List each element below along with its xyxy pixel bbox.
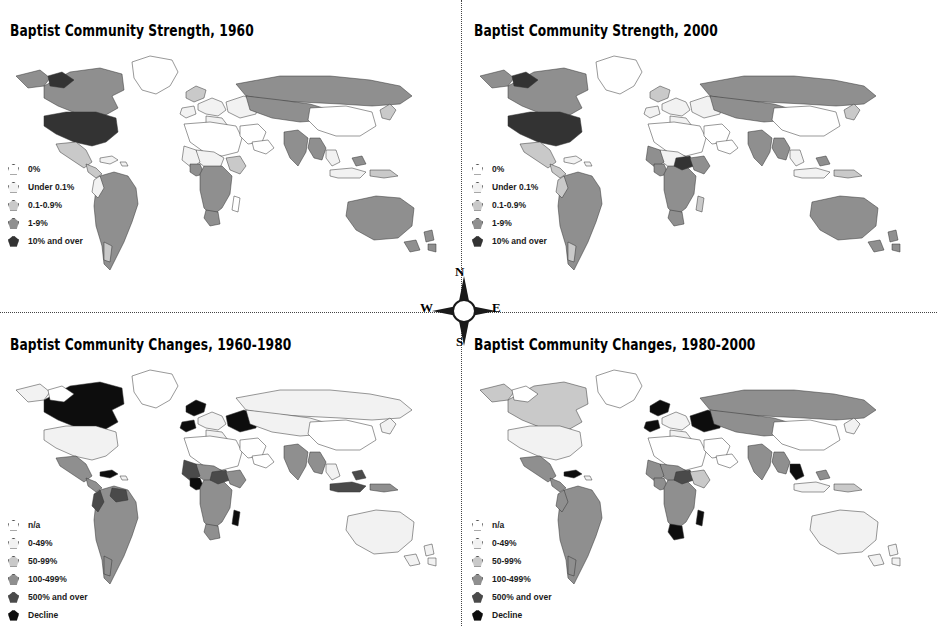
legend-row: Decline bbox=[472, 606, 552, 624]
legend-row: 500% and over bbox=[472, 588, 552, 606]
legend-row: 1-9% bbox=[472, 214, 547, 232]
compass-label-north: N bbox=[455, 264, 464, 280]
legend-swatch-pentagon-icon bbox=[472, 164, 483, 175]
legend-swatch-pentagon-icon bbox=[472, 520, 483, 531]
legend-swatch-pentagon-icon bbox=[8, 574, 19, 585]
legend-row: n/a bbox=[472, 516, 552, 534]
legend-label: 1-9% bbox=[28, 218, 48, 229]
legend-label: Under 0.1% bbox=[492, 182, 538, 193]
legend-row: Under 0.1% bbox=[8, 178, 83, 196]
legend-swatch-pentagon-icon bbox=[472, 538, 483, 549]
legend-swatch-pentagon-icon bbox=[8, 556, 19, 567]
legend-swatch-pentagon-icon bbox=[8, 200, 19, 211]
legend-label: Under 0.1% bbox=[28, 182, 74, 193]
legend-strength: 0%Under 0.1%0.1-0.9%1-9%10% and over bbox=[472, 160, 547, 250]
legend-label: 50-99% bbox=[492, 556, 521, 567]
panel-strength-2000: Baptist Community Strength, 2000 bbox=[464, 0, 926, 312]
legend-row: 500% and over bbox=[8, 588, 88, 606]
legend-swatch-pentagon-icon bbox=[472, 610, 483, 621]
legend-row: 0.1-0.9% bbox=[8, 196, 83, 214]
legend-row: 0% bbox=[472, 160, 547, 178]
legend-changes: n/a0-49%50-99%100-499%500% and overDecli… bbox=[8, 516, 88, 624]
legend-label: 0.1-0.9% bbox=[28, 200, 62, 211]
legend-label: 0% bbox=[492, 164, 504, 175]
panel-changes-1960-1980: Baptist Community Changes, 1960-1980 bbox=[0, 314, 462, 626]
legend-row: Decline bbox=[8, 606, 88, 624]
legend-row: 100-499% bbox=[472, 570, 552, 588]
panel-strength-1960: Baptist Community Strength, 1960 bbox=[0, 0, 462, 312]
legend-swatch-pentagon-icon bbox=[472, 592, 483, 603]
legend-swatch-pentagon-icon bbox=[472, 218, 483, 229]
legend-row: 0-49% bbox=[472, 534, 552, 552]
legend-label: 0.1-0.9% bbox=[492, 200, 526, 211]
legend-label: Decline bbox=[28, 610, 58, 621]
legend-swatch-pentagon-icon bbox=[8, 538, 19, 549]
legend-row: 50-99% bbox=[8, 552, 88, 570]
legend-label: 500% and over bbox=[492, 592, 552, 603]
legend-row: 50-99% bbox=[472, 552, 552, 570]
legend-swatch-pentagon-icon bbox=[8, 218, 19, 229]
panel-changes-1980-2000: Baptist Community Changes, 1980-2000 bbox=[464, 314, 926, 626]
legend-row: 10% and over bbox=[472, 232, 547, 250]
legend-strength: 0%Under 0.1%0.1-0.9%1-9%10% and over bbox=[8, 160, 83, 250]
legend-label: n/a bbox=[28, 520, 40, 531]
legend-row: n/a bbox=[8, 516, 88, 534]
legend-row: 0-49% bbox=[8, 534, 88, 552]
legend-changes: n/a0-49%50-99%100-499%500% and overDecli… bbox=[472, 516, 552, 624]
compass-rose: N S W E bbox=[424, 268, 504, 354]
legend-swatch-pentagon-icon bbox=[472, 556, 483, 567]
legend-label: 100-499% bbox=[28, 574, 67, 585]
legend-label: 10% and over bbox=[28, 236, 83, 247]
legend-label: Decline bbox=[492, 610, 522, 621]
legend-swatch-pentagon-icon bbox=[472, 236, 483, 247]
panel-title: Baptist Community Changes, 1980-2000 bbox=[474, 336, 755, 354]
legend-swatch-pentagon-icon bbox=[8, 610, 19, 621]
legend-swatch-pentagon-icon bbox=[8, 182, 19, 193]
legend-label: 0-49% bbox=[28, 538, 53, 549]
legend-row: Under 0.1% bbox=[472, 178, 547, 196]
legend-swatch-pentagon-icon bbox=[472, 574, 483, 585]
legend-swatch-pentagon-icon bbox=[472, 200, 483, 211]
legend-row: 1-9% bbox=[8, 214, 83, 232]
legend-row: 10% and over bbox=[8, 232, 83, 250]
legend-label: 10% and over bbox=[492, 236, 547, 247]
legend-swatch-pentagon-icon bbox=[8, 592, 19, 603]
compass-label-south: S bbox=[456, 334, 463, 350]
legend-row: 0% bbox=[8, 160, 83, 178]
legend-label: 100-499% bbox=[492, 574, 531, 585]
legend-label: 0-49% bbox=[492, 538, 517, 549]
legend-label: 500% and over bbox=[28, 592, 88, 603]
legend-row: 0.1-0.9% bbox=[472, 196, 547, 214]
legend-swatch-pentagon-icon bbox=[8, 164, 19, 175]
legend-label: n/a bbox=[492, 520, 504, 531]
legend-swatch-pentagon-icon bbox=[472, 182, 483, 193]
legend-label: 0% bbox=[28, 164, 40, 175]
legend-row: 100-499% bbox=[8, 570, 88, 588]
panel-title: Baptist Community Strength, 2000 bbox=[474, 22, 718, 40]
legend-label: 1-9% bbox=[492, 218, 512, 229]
panel-title: Baptist Community Strength, 1960 bbox=[10, 22, 254, 40]
compass-label-east: E bbox=[492, 300, 501, 316]
panel-title: Baptist Community Changes, 1960-1980 bbox=[10, 336, 291, 354]
legend-swatch-pentagon-icon bbox=[8, 236, 19, 247]
compass-label-west: W bbox=[420, 300, 433, 316]
legend-label: 50-99% bbox=[28, 556, 57, 567]
legend-swatch-pentagon-icon bbox=[8, 520, 19, 531]
